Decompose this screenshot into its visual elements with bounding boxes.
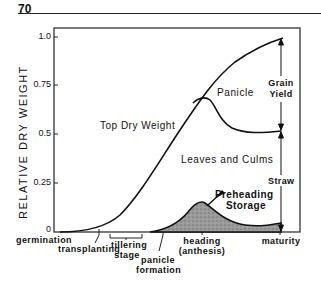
x-label-panicle-formation: formation [136,265,180,275]
y-tick-0.75: 0.75 [27,79,51,89]
label-leaves-culms: Leaves and Culms [181,154,273,165]
x-label-transplanting: transplanting [58,244,118,254]
y-tick-0.5: 0.5 [27,128,51,138]
label-top-dry-weight: Top Dry Weight [100,120,175,131]
x-label-heading-anthesis: (anthesis) [177,246,227,256]
x-label-maturity: maturity [258,236,304,246]
x-label-heading: heading [179,236,225,246]
y-axis-label: RELATIVE DRY WEIGHT [17,69,29,219]
panicle-boundary-curve [193,98,281,133]
label-straw: Straw [268,176,294,186]
x-label-panicle: panicle [138,255,178,265]
label-panicle: Panicle [217,87,254,98]
label-preheading: Preheading [215,190,263,200]
y-tick-0.25: 0.25 [27,177,51,187]
chart-plot [0,0,321,296]
label-storage: Storage [222,201,270,211]
label-yield: Yield [268,89,294,99]
yield-straw-arrows [279,39,284,231]
y-tick-0: 0 [27,224,51,234]
label-grain: Grain [268,78,294,88]
x-label-tillering: tillering [111,240,143,250]
y-tick-1.0: 1.0 [27,31,51,41]
